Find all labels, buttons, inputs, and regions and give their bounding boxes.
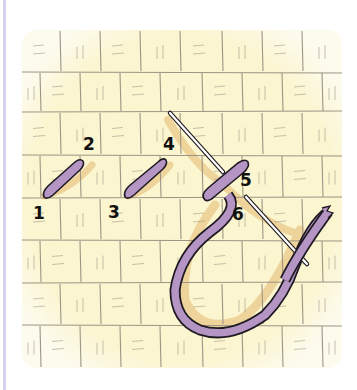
point-label-4: 4 [163,134,175,154]
stitch-illustration: 1 2 3 4 5 6 [0,0,357,390]
point-label-3: 3 [108,202,120,222]
point-label-2: 2 [83,134,95,154]
point-label-5: 5 [240,170,252,190]
point-label-6: 6 [232,204,244,224]
point-label-1: 1 [33,203,45,223]
